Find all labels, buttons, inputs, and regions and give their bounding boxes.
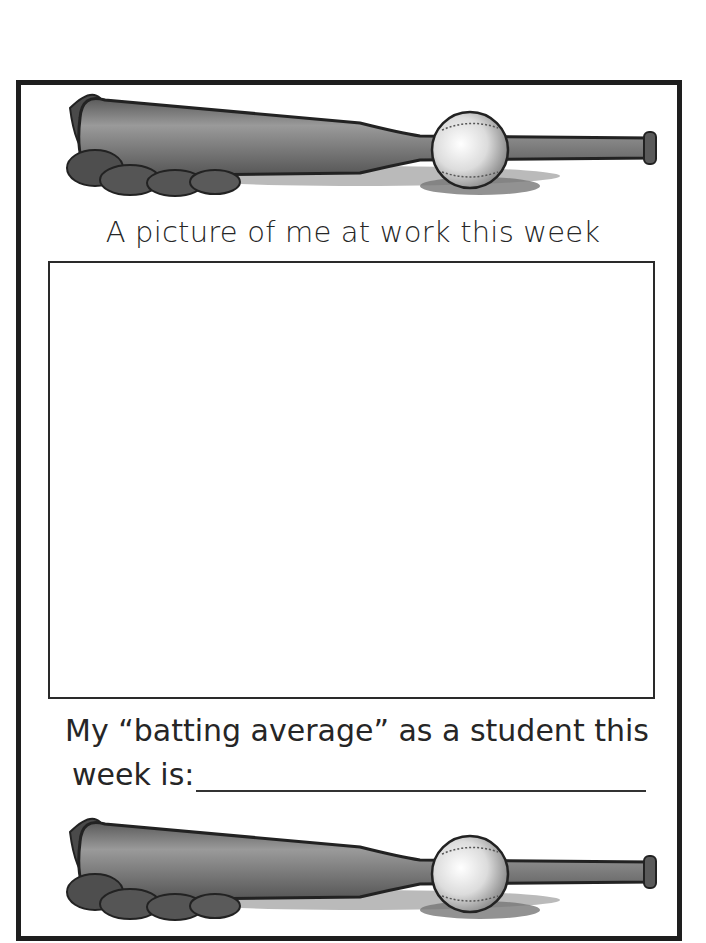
batting-average-label: week is: bbox=[72, 757, 194, 792]
batting-average-prompt: My “batting average” as a student this bbox=[65, 713, 649, 748]
picture-section-title: A picture of me at work this week bbox=[0, 215, 706, 249]
bat-glove-ball-icon bbox=[60, 812, 670, 924]
batting-average-answer-row: week is: bbox=[72, 757, 646, 792]
batting-average-answer-field[interactable] bbox=[196, 762, 646, 792]
bat-glove-ball-icon bbox=[60, 88, 670, 200]
drawing-area[interactable] bbox=[48, 261, 655, 699]
